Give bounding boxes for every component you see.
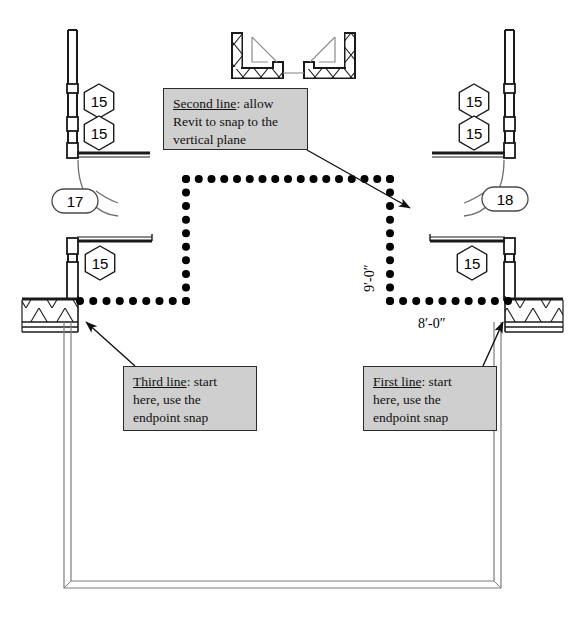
tag-label: 15	[466, 93, 483, 110]
sketch-point[interactable]	[182, 283, 190, 291]
sketch-point[interactable]	[504, 297, 512, 305]
sketch-point[interactable]	[386, 256, 394, 264]
sketch-point[interactable]	[195, 175, 203, 183]
sketch-point[interactable]	[386, 216, 394, 224]
sketch-point[interactable]	[259, 175, 267, 183]
tag-label: 15	[464, 255, 481, 272]
note-line-3: endpoint snap	[373, 409, 487, 427]
note-rest: : allow	[236, 96, 273, 111]
tag-door-left[interactable]: 17	[52, 189, 98, 213]
sketch-point[interactable]	[452, 297, 460, 305]
tag-left-lower[interactable]: 15	[85, 246, 114, 280]
tag-left-upper-1[interactable]: 15	[84, 84, 113, 118]
sketch-point[interactable]	[465, 297, 473, 305]
sketch-point[interactable]	[76, 297, 84, 305]
sketch-point[interactable]	[208, 175, 216, 183]
note-line-2: Revit to snap to the	[173, 113, 298, 131]
leader-arrow-third-line	[86, 322, 135, 366]
sketch-point[interactable]	[386, 270, 394, 278]
note-rest: : start	[187, 374, 217, 389]
tag-label: 15	[91, 125, 108, 142]
note-lead: First line	[373, 374, 421, 389]
sketch-point[interactable]	[89, 297, 97, 305]
tag-label: 17	[67, 193, 84, 210]
sketch-point[interactable]	[491, 297, 499, 305]
note-lead: Third line	[133, 374, 187, 389]
sketch-point[interactable]	[271, 175, 279, 183]
sketch-point[interactable]	[156, 297, 164, 305]
sketch-point[interactable]	[182, 229, 190, 237]
sketch-point[interactable]	[103, 297, 111, 305]
tag-left-upper-2[interactable]: 15	[84, 116, 113, 150]
note-line-2: here, use the	[373, 391, 487, 409]
sketch-point[interactable]	[169, 297, 177, 305]
note-line-2: here, use the	[133, 391, 247, 409]
sketch-point[interactable]	[182, 270, 190, 278]
sketch-point[interactable]	[412, 297, 420, 305]
sketch-point[interactable]	[386, 229, 394, 237]
tag-label: 18	[497, 191, 514, 208]
tag-right-lower[interactable]: 15	[457, 246, 486, 280]
sketch-point[interactable]	[399, 297, 407, 305]
sketch-point[interactable]	[182, 297, 190, 305]
note-first-line[interactable]: First line: start here, use the endpoint…	[363, 366, 497, 431]
sketch-point[interactable]	[182, 189, 190, 197]
tag-label: 15	[91, 93, 108, 110]
tag-right-upper-2[interactable]: 15	[459, 116, 488, 150]
sketch-point[interactable]	[182, 202, 190, 210]
dimension-label-vertical: 9′-0″	[362, 264, 378, 292]
sketch-point[interactable]	[478, 297, 486, 305]
sketch-point[interactable]	[373, 175, 381, 183]
sketch-point[interactable]	[386, 297, 394, 305]
sketch-point[interactable]	[284, 175, 292, 183]
sketch-point[interactable]	[182, 216, 190, 224]
sketch-point[interactable]	[386, 202, 394, 210]
sketch-point[interactable]	[335, 175, 343, 183]
sketch-point[interactable]	[246, 175, 254, 183]
sketch-point[interactable]	[233, 175, 241, 183]
sketch-point[interactable]	[129, 297, 137, 305]
sketch-point[interactable]	[386, 243, 394, 251]
leader-arrow-first-line	[483, 322, 503, 366]
note-leader-arrows	[86, 150, 503, 366]
sketch-point[interactable]	[310, 175, 318, 183]
top-window-section-right	[304, 33, 355, 78]
sketch-point[interactable]	[425, 297, 433, 305]
sketch-point[interactable]	[438, 297, 446, 305]
tag-label: 15	[92, 255, 109, 272]
note-rest: : start	[421, 374, 451, 389]
wall-section-right-hatched	[505, 296, 563, 332]
note-third-line[interactable]: Third line: start here, use the endpoint…	[123, 366, 257, 431]
sketch-point[interactable]	[142, 297, 150, 305]
wall-section-left-hatched	[22, 296, 78, 332]
sketch-point[interactable]	[182, 175, 190, 183]
sketch-point[interactable]	[386, 175, 394, 183]
sketch-point[interactable]	[386, 283, 394, 291]
sketch-point[interactable]	[322, 175, 330, 183]
note-line-3: vertical plane	[173, 131, 298, 149]
note-second-line[interactable]: Second line: allow Revit to snap to the …	[163, 88, 308, 150]
tag-label: 15	[466, 125, 483, 142]
note-lead: Second line	[173, 96, 236, 111]
sketch-point[interactable]	[116, 297, 124, 305]
sketch-point[interactable]	[297, 175, 305, 183]
tag-door-right[interactable]: 18	[482, 187, 528, 211]
sketch-point[interactable]	[182, 256, 190, 264]
drawing-canvas: 1515151515151718 Second line: allow Revi…	[0, 0, 585, 617]
sketch-point[interactable]	[220, 175, 228, 183]
dimension-label-horizontal: 8′-0″	[418, 316, 446, 332]
top-window-section-left	[232, 33, 283, 78]
sketch-point[interactable]	[182, 243, 190, 251]
tag-right-upper-1[interactable]: 15	[459, 84, 488, 118]
note-line-3: endpoint snap	[133, 409, 247, 427]
